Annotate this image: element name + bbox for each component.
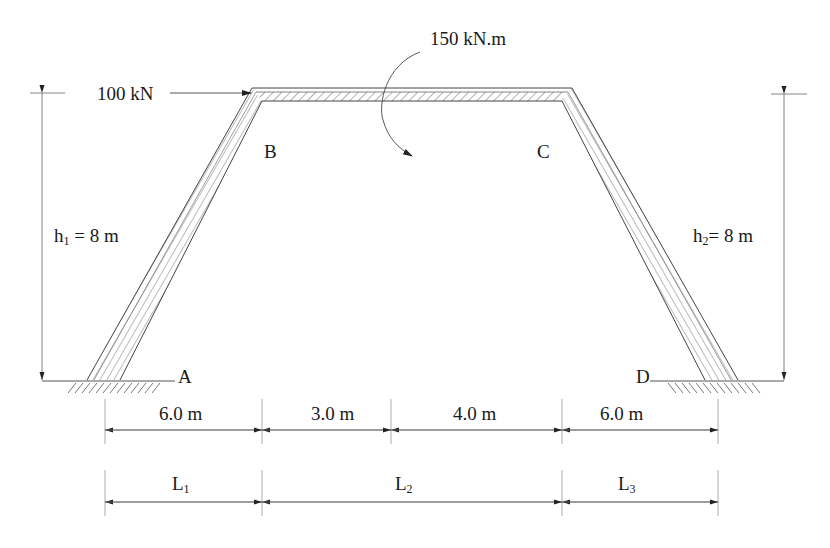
dim-label-l2: L2	[395, 474, 413, 495]
joint-b-label: B	[264, 142, 277, 161]
beam-bc	[252, 88, 572, 101]
height-h1-label: h1 = 8 m	[54, 226, 119, 247]
dim-label-l1: L1	[172, 474, 190, 495]
dim-label-l3: L3	[618, 474, 636, 495]
joint-a-label: A	[178, 367, 192, 386]
support-a	[42, 381, 175, 393]
height-dimension-right	[771, 94, 807, 380]
joint-d-label: D	[636, 367, 650, 386]
frame-diagram: 100 kN 150 kN.m B C A D h1 = 8 m h2= 8 m…	[0, 0, 830, 548]
support-d	[650, 381, 784, 393]
height-h2-label: h2= 8 m	[693, 226, 753, 247]
joint-c-label: C	[537, 142, 550, 161]
point-load-label: 100 kN	[97, 84, 153, 103]
dim-label-b-moment: 3.0 m	[311, 404, 354, 423]
moment-label: 150 kN.m	[430, 29, 506, 48]
moment-arc	[382, 52, 420, 156]
dim-label-ab-span: 6.0 m	[159, 404, 202, 423]
dim-label-moment-c: 4.0 m	[453, 404, 496, 423]
dim-label-cd-span: 6.0 m	[600, 404, 643, 423]
